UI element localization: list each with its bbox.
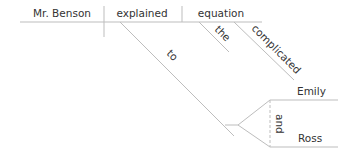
modifier-complicated: complicated (250, 22, 304, 76)
sentence-diagram: Mr. Benson explained equation the compli… (0, 0, 353, 157)
object-word: equation (198, 7, 244, 19)
fork-lower (238, 125, 270, 147)
modifier-the: the (213, 23, 234, 44)
conjunction-and: and (274, 114, 286, 134)
preposition-to: to (165, 47, 181, 63)
preposition-line (120, 22, 234, 136)
subject-word: Mr. Benson (33, 7, 91, 19)
prep-object-emily: Emily (297, 85, 326, 97)
verb-word: explained (116, 7, 167, 19)
prep-object-ross: Ross (298, 132, 322, 144)
fork-upper (238, 100, 270, 125)
